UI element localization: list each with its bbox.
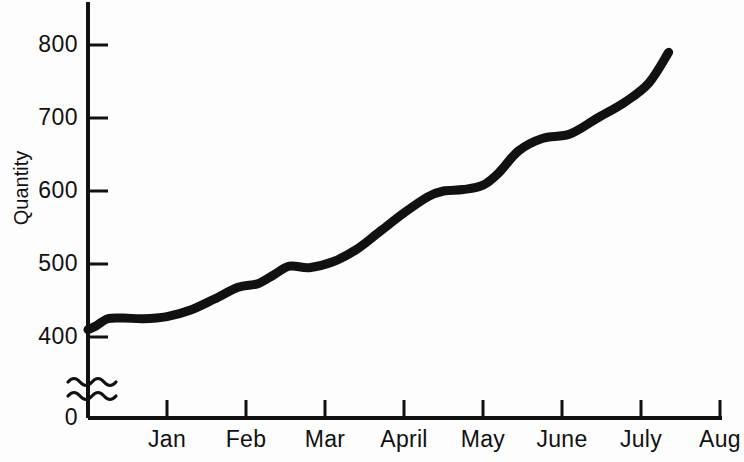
axis-break-marker — [68, 379, 116, 400]
x-tick-label-april: April — [364, 428, 444, 451]
x-tick-label-june: June — [522, 428, 602, 451]
x-tick-label-jan: Jan — [127, 428, 207, 451]
y-axis-ticks — [88, 45, 108, 337]
y-tick-label-700: 700 — [18, 106, 78, 129]
y-tick-label-500: 500 — [18, 252, 78, 275]
x-tick-label-july: July — [601, 428, 681, 451]
x-tick-label-may: May — [443, 428, 523, 451]
y-tick-label-800: 800 — [18, 33, 78, 56]
y-tick-label-400: 400 — [18, 325, 78, 348]
y-tick-label-600: 600 — [18, 179, 78, 202]
x-tick-label-feb: Feb — [206, 428, 286, 451]
x-tick-label-mar: Mar — [285, 428, 365, 451]
data-series-quantity — [88, 52, 669, 329]
x-tick-label-aug: Aug — [680, 428, 744, 451]
y-axis-zero-label: 0 — [18, 406, 78, 429]
x-axis-ticks — [167, 400, 720, 418]
